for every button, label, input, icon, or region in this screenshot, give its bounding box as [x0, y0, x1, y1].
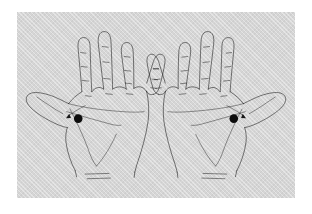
- left-thumb-crease: [37, 97, 63, 114]
- right-finger-creases: [153, 47, 231, 97]
- right-life-line: [216, 109, 242, 166]
- illustration-panel: [17, 12, 295, 198]
- left-wrist-creases: [85, 173, 110, 178]
- left-hand-finger-webs: [92, 87, 147, 92]
- right-thumb-crease: [249, 97, 275, 114]
- left-heart-line: [69, 104, 144, 112]
- left-palm-fold: [96, 134, 116, 166]
- right-hand-finger-webs: [165, 87, 220, 92]
- left-finger-creases: [81, 47, 159, 97]
- right-acupressure-point-marker: [229, 114, 238, 123]
- right-heart-line: [168, 104, 243, 112]
- hands-illustration: [17, 12, 295, 198]
- left-hand-outline: [26, 32, 165, 178]
- right-wrist-creases: [202, 173, 227, 178]
- left-hand: [26, 32, 165, 179]
- left-life-line: [70, 109, 96, 166]
- right-hand: [147, 32, 286, 179]
- right-palm-fold: [196, 134, 216, 166]
- right-hand-outline: [147, 32, 286, 178]
- figure-root: Acupressure point location on both hands…: [0, 0, 312, 214]
- left-acupressure-point-marker: [74, 114, 83, 123]
